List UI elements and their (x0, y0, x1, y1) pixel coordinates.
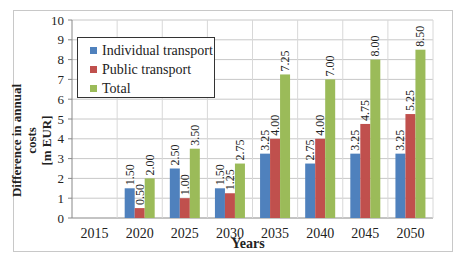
data-label: 5.25 (403, 90, 417, 111)
chart-legend: Individual transport Public transport To… (77, 37, 215, 98)
bar-total (415, 50, 425, 218)
bar-total (190, 149, 200, 218)
data-label: 8.50 (413, 26, 427, 47)
data-label: 7.00 (323, 55, 337, 76)
data-label: 3.25 (393, 130, 407, 151)
bar-total (235, 164, 245, 218)
bar-public-transport (225, 193, 235, 218)
bar-public-transport (405, 114, 415, 218)
data-label: 4.75 (358, 100, 372, 121)
legend-label: Total (102, 81, 131, 97)
data-label: 7.25 (278, 50, 292, 71)
y-tick-label: 6 (58, 92, 65, 107)
data-label: 0.50 (133, 184, 147, 205)
bar-total (280, 74, 290, 218)
bar-public-transport (135, 208, 145, 218)
y-tick-label: 1 (58, 191, 65, 206)
bar-individual-transport (260, 154, 270, 218)
bar-public-transport (360, 124, 370, 218)
legend-swatch-icon (90, 47, 97, 54)
bar-total (325, 79, 335, 218)
y-tick-label: 3 (58, 151, 65, 166)
y-axis-title: Difference in annual costs [m EUR] (9, 71, 54, 211)
bar-total (370, 60, 380, 218)
data-label: 4.00 (268, 115, 282, 136)
legend-label: Public transport (102, 62, 191, 78)
data-label: 4.00 (313, 115, 327, 136)
data-label: 1.25 (223, 169, 237, 190)
bar-individual-transport (395, 154, 405, 218)
y-tick-label: 2 (58, 171, 65, 186)
y-tick-label: 4 (58, 131, 65, 146)
y-tick-label: 0 (58, 211, 65, 226)
y-axis-title-line1: Difference in annual costs (9, 71, 39, 211)
bar-chart-plot: 012345678910201520201.500.502.0020252.50… (0, 0, 466, 269)
bar-total (145, 178, 155, 218)
data-label: 2.00 (143, 154, 157, 175)
data-label: 8.00 (368, 36, 382, 57)
legend-item-public-transport: Public transport (90, 60, 214, 79)
bar-individual-transport (215, 188, 225, 218)
data-label: 1.00 (178, 174, 192, 195)
y-tick-label: 10 (51, 13, 64, 28)
legend-item-total: Total (90, 79, 214, 98)
data-label: 3.50 (188, 125, 202, 146)
data-label: 2.75 (303, 140, 317, 161)
data-label: 1.50 (123, 164, 137, 185)
data-label: 3.25 (348, 130, 362, 151)
y-tick-label: 8 (58, 52, 65, 67)
bar-individual-transport (350, 154, 360, 218)
x-axis-title: Years (0, 236, 466, 252)
bar-public-transport (270, 139, 280, 218)
data-label: 2.75 (233, 140, 247, 161)
legend-swatch-icon (90, 85, 97, 92)
bar-public-transport (315, 139, 325, 218)
y-axis-title-line2: [m EUR] (39, 71, 54, 211)
data-label: 2.50 (168, 145, 182, 166)
bar-individual-transport (305, 164, 315, 218)
legend-swatch-icon (90, 66, 97, 73)
legend-item-individual-transport: Individual transport (90, 41, 214, 60)
y-tick-label: 5 (58, 112, 65, 127)
y-tick-label: 9 (58, 32, 65, 47)
bar-public-transport (180, 198, 190, 218)
y-tick-label: 7 (58, 72, 65, 87)
legend-label: Individual transport (102, 43, 213, 59)
